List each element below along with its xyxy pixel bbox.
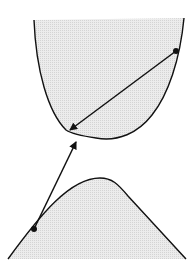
point-upper-right xyxy=(173,48,179,54)
lower-region xyxy=(8,178,186,259)
upper-region xyxy=(34,18,184,139)
point-lower-left xyxy=(31,226,37,232)
diagram-canvas xyxy=(0,0,195,273)
